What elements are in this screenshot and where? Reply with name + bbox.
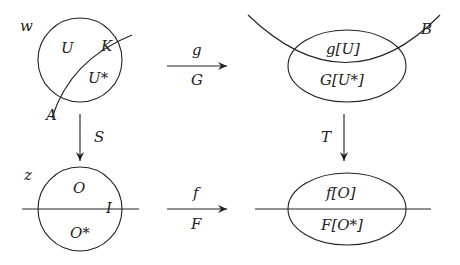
arrow-f-F: f F	[167, 184, 227, 233]
top-right-space: B g[U] G[U*]	[248, 15, 440, 102]
region-label-GUstar: G[U*]	[320, 71, 364, 89]
region-label-gU: g[U]	[326, 40, 360, 58]
curve-label-a: A	[44, 106, 57, 124]
region-label-o-star: O*	[70, 224, 90, 242]
map-label-g: g	[192, 41, 202, 59]
top-left-circle	[38, 18, 122, 102]
space-label-z: z	[23, 166, 32, 184]
bottom-left-space: z O I O*	[22, 166, 139, 251]
commutative-diagram: w U K U* A g G B g[U] G[U*] S T z O I O*	[0, 0, 460, 265]
region-label-fO: f[O]	[325, 184, 356, 202]
map-label-f: f	[192, 184, 201, 202]
bottom-right-space: f[O] F[O*]	[255, 173, 431, 245]
map-label-F: F	[190, 215, 202, 233]
map-label-T: T	[321, 128, 332, 146]
region-label-o: O	[73, 179, 85, 197]
line-label-i: I	[105, 199, 113, 217]
space-label-w: w	[20, 17, 33, 35]
arrow-g-G: g G	[167, 41, 227, 89]
curve-label-b: B	[420, 20, 432, 38]
arrow-T: T	[321, 114, 344, 161]
map-label-G: G	[191, 71, 203, 89]
region-label-FOstar: F[O*]	[320, 216, 363, 234]
map-label-S: S	[94, 128, 104, 146]
region-label-u: U	[61, 39, 75, 57]
top-left-space: w U K U* A	[20, 17, 132, 124]
arrow-S: S	[80, 114, 104, 161]
curve-label-k: K	[100, 37, 113, 55]
region-label-u-star: U*	[88, 69, 109, 87]
